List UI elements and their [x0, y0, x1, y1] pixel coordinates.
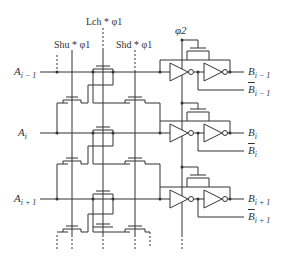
input-a-i: Ai: [18, 127, 27, 141]
circuit-diagram: Shu * φ1 Lch * φ1 Shd * φ1 φ2 Ai − 1 Ai …: [0, 0, 286, 261]
label-latch: Lch * φ1: [86, 17, 122, 27]
output-b-i-plus-1: Bi + 1: [248, 193, 270, 207]
output-b-bar-i: Bi: [248, 145, 257, 159]
label-shift-down: Shd * φ1: [116, 40, 152, 50]
output-b-bar-i-minus-1: Bi − 1: [248, 84, 270, 98]
label-phi2: φ2: [175, 25, 187, 36]
input-a-i-minus-1: Ai − 1: [14, 66, 36, 80]
output-b-i: Bi: [248, 127, 257, 141]
output-b-i-minus-1: Bi − 1: [248, 66, 270, 80]
output-b-bar-i-plus-1: Bi + 1: [248, 211, 270, 225]
row-i: [40, 97, 244, 164]
label-shift-up: Shu * φ1: [54, 40, 90, 50]
input-a-i-plus-1: Ai + 1: [14, 193, 36, 207]
row-i-plus-1: [40, 158, 244, 248]
